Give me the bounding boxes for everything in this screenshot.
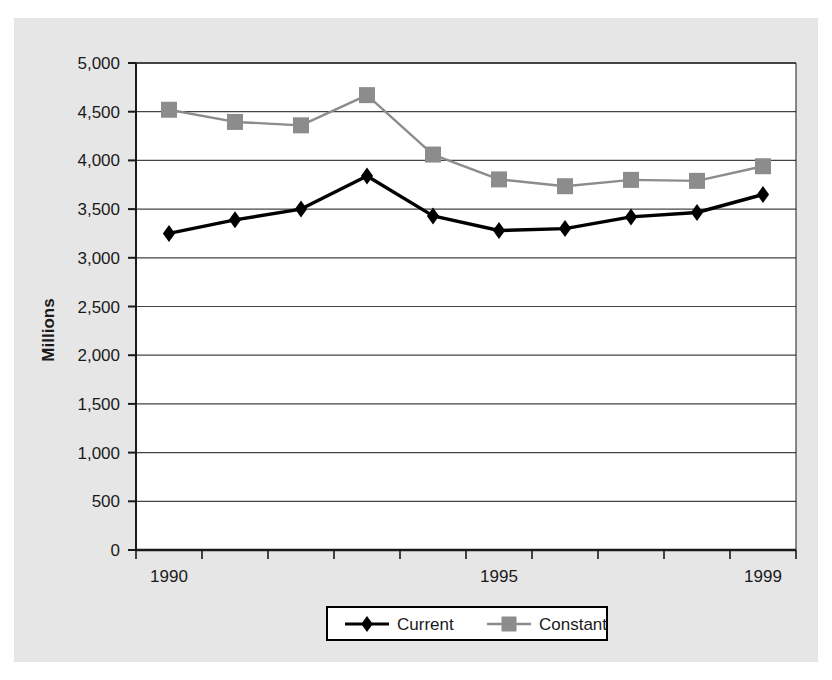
data-point-constant-1999 [755, 158, 771, 174]
x-axis-tick-labels: 199019951999 [150, 567, 782, 586]
y-tick-label-3000: 3,000 [77, 249, 120, 268]
y-tick-label-1500: 1,500 [77, 395, 120, 414]
chart-legend[interactable]: CurrentConstant [327, 607, 607, 640]
legend-marker-constant [502, 617, 517, 632]
y-tick-label-5000: 5,000 [77, 54, 120, 73]
y-tick-label-3500: 3,500 [77, 200, 120, 219]
x-axis-ticks [136, 550, 796, 559]
data-point-constant-1991 [227, 114, 243, 130]
y-axis-tick-labels: 05001,0001,5002,0002,5003,0003,5004,0004… [77, 54, 120, 560]
legend-label-current[interactable]: Current [397, 615, 454, 634]
y-tick-label-500: 500 [92, 492, 120, 511]
line-chart: 05001,0001,5002,0002,5003,0003,5004,0004… [0, 0, 832, 680]
chart-figure: 05001,0001,5002,0002,5003,0003,5004,0004… [0, 0, 832, 680]
y-tick-label-0: 0 [111, 541, 120, 560]
x-tick-label-1990: 1990 [150, 567, 188, 586]
y-axis-title: Millions [39, 298, 58, 361]
y-tick-label-2500: 2,500 [77, 298, 120, 317]
data-point-constant-1996 [557, 178, 573, 194]
data-point-constant-1994 [425, 147, 441, 163]
y-tick-label-1000: 1,000 [77, 444, 120, 463]
y-tick-label-4500: 4,500 [77, 103, 120, 122]
data-point-constant-1998 [689, 173, 705, 189]
data-point-constant-1990 [161, 102, 177, 118]
data-point-constant-1997 [623, 172, 639, 188]
data-point-constant-1992 [293, 117, 309, 133]
data-point-constant-1995 [491, 171, 507, 187]
x-tick-label-1999: 1999 [744, 567, 782, 586]
y-axis-ticks [128, 63, 136, 550]
y-tick-label-4000: 4,000 [77, 151, 120, 170]
legend-label-constant[interactable]: Constant [539, 615, 607, 634]
data-point-constant-1993 [359, 87, 375, 103]
x-tick-label-1995: 1995 [480, 567, 518, 586]
y-tick-label-2000: 2,000 [77, 346, 120, 365]
